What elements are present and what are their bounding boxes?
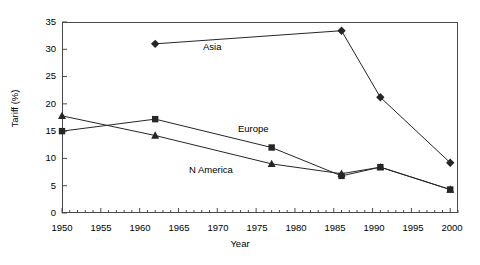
x-axis-major-ticks [62, 208, 450, 213]
tariff-line-chart: 35 30 25 20 15 10 5 0 1950 1955 1960 196… [0, 0, 480, 265]
data-point-marker [58, 112, 66, 119]
data-point-marker [268, 144, 274, 150]
data-point-marker [59, 128, 65, 134]
data-point-marker [152, 116, 158, 122]
data-point-marker [337, 27, 345, 35]
data-series-layer [58, 27, 454, 193]
chart-svg-layer [0, 0, 480, 265]
x-axis-minor-ticks [70, 210, 458, 213]
data-point-marker [151, 40, 159, 48]
